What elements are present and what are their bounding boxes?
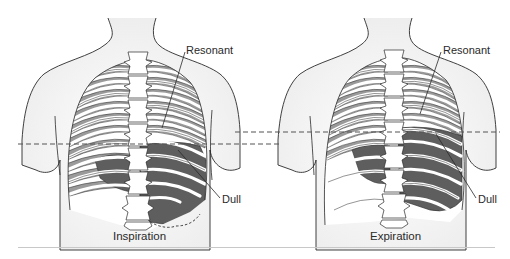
caption-expiration: Expiration xyxy=(370,230,421,243)
diagram-artwork xyxy=(0,0,510,259)
caption-inspiration: Inspiration xyxy=(113,230,166,243)
bottom-divider xyxy=(18,247,495,248)
label-resonant-expiration: Resonant xyxy=(443,44,490,56)
label-resonant-inspiration: Resonant xyxy=(186,44,233,56)
label-dull-inspiration: Dull xyxy=(222,193,241,205)
label-dull-expiration: Dull xyxy=(478,193,497,205)
